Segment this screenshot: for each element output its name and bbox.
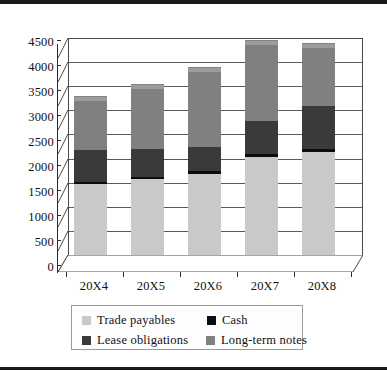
legend-item-long-term-notes[interactable]: Long-term notes: [202, 330, 302, 350]
x-category-label-1: 20X5: [125, 280, 177, 293]
y-tick-label: 1000: [10, 211, 54, 224]
x-tick-mark: [66, 272, 67, 277]
x-tick-mark: [123, 272, 124, 277]
plot-area: [58, 38, 363, 272]
x-category-label-4: 20X8: [296, 280, 348, 293]
segment-long-term-notes[interactable]: [245, 45, 278, 121]
legend-item-cash[interactable]: Cash: [203, 310, 302, 330]
chart-floor: [58, 255, 363, 272]
segment-lease-obligations[interactable]: [74, 150, 107, 182]
x-category-label-2: 20X6: [182, 280, 234, 293]
bar-20X8[interactable]: [302, 48, 335, 255]
segment-long-term-notes[interactable]: [188, 72, 221, 148]
legend-item-trade-payables[interactable]: Trade payables: [72, 310, 203, 330]
y-tick-label: 4000: [10, 61, 54, 74]
segment-trade-payables[interactable]: [245, 157, 278, 255]
segment-trade-payables[interactable]: [188, 174, 221, 256]
segment-lease-obligations[interactable]: [245, 121, 278, 154]
legend-swatch-icon: [206, 336, 215, 345]
legend-label: Cash: [222, 314, 248, 327]
bar-20X6[interactable]: [188, 72, 221, 255]
legend-row: Lease obligations Long-term notes: [72, 330, 302, 350]
x-category-label-3: 20X7: [239, 280, 291, 293]
y-tick-label: 500: [10, 236, 54, 249]
segment-long-term-notes[interactable]: [74, 101, 107, 150]
segment-trade-payables[interactable]: [131, 179, 164, 255]
segment-lease-obligations[interactable]: [131, 149, 164, 176]
legend-label: Trade payables: [97, 314, 175, 327]
y-axis-labels: 4500 4000 3500 3000 2500 2000 1500 1000 …: [2, 4, 54, 371]
segment-long-term-notes[interactable]: [302, 48, 335, 106]
segment-long-term-notes[interactable]: [131, 89, 164, 150]
x-tick-mark: [294, 272, 295, 277]
y-tick-label: 3000: [10, 111, 54, 124]
legend-label: Lease obligations: [97, 334, 188, 347]
x-axis-labels: 20X4 20X5 20X6 20X7 20X8: [58, 276, 368, 296]
y-tick-label: 2500: [10, 136, 54, 149]
stacked-bar-chart-figure: 4500 4000 3500 3000 2500 2000 1500 1000 …: [0, 4, 387, 371]
legend-swatch-icon: [82, 336, 91, 345]
y-tick-label: 4500: [10, 36, 54, 49]
segment-lease-obligations[interactable]: [302, 106, 335, 149]
chart-legend: Trade payables Cash Lease obligations Lo…: [71, 305, 303, 350]
segment-trade-payables[interactable]: [74, 184, 107, 255]
y-tick-label: 2000: [10, 161, 54, 174]
legend-item-lease-obligations[interactable]: Lease obligations: [72, 330, 202, 350]
legend-swatch-icon: [207, 316, 216, 325]
legend-label: Long-term notes: [221, 334, 307, 347]
y-tick-label: 0: [10, 261, 54, 274]
segment-lease-obligations[interactable]: [188, 147, 221, 171]
y-tick-label: 1500: [10, 186, 54, 199]
x-tick-mark: [237, 272, 238, 277]
y-tick-label: 3500: [10, 86, 54, 99]
x-tick-mark: [180, 272, 181, 277]
bar-20X7[interactable]: [245, 45, 278, 255]
segment-trade-payables[interactable]: [302, 152, 335, 255]
x-category-label-0: 20X4: [68, 280, 120, 293]
bar-20X4[interactable]: [74, 101, 107, 255]
bar-20X5[interactable]: [131, 89, 164, 255]
legend-row: Trade payables Cash: [72, 310, 302, 330]
bottom-divider-rule: [0, 367, 387, 370]
x-tick-mark: [351, 272, 352, 277]
legend-swatch-icon: [82, 316, 91, 325]
